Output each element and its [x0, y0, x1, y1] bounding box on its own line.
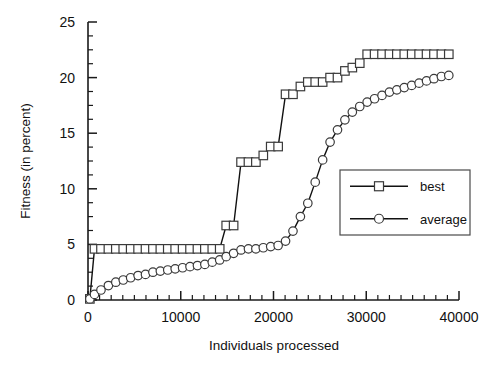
legend-label-best: best [420, 179, 445, 194]
data-point-marker [318, 156, 327, 165]
fitness-line-chart: 010000200003000040000 0510152025 bestave… [0, 0, 504, 367]
x-tick-label: 40000 [440, 309, 479, 325]
y-tick-label: 10 [59, 181, 75, 197]
legend-label-average: average [420, 212, 467, 227]
x-tick-label: 10000 [161, 309, 200, 325]
data-point-marker [274, 142, 283, 151]
data-point-marker [311, 178, 320, 187]
data-point-marker [215, 245, 224, 254]
data-point-marker [445, 50, 454, 59]
x-tick-label: 30000 [347, 309, 386, 325]
chart-legend: bestaverage [340, 170, 470, 235]
chart-figure: 010000200003000040000 0510152025 bestave… [0, 0, 504, 367]
y-axis-tick-labels: 0510152025 [59, 14, 75, 308]
axes [88, 22, 459, 300]
y-tick-label: 25 [59, 14, 75, 30]
data-point-marker [229, 221, 238, 230]
data-point-marker [348, 108, 357, 117]
y-axis-ticks [88, 22, 97, 300]
data-point-marker [341, 116, 350, 125]
data-point-marker [281, 237, 290, 246]
y-tick-label: 0 [67, 292, 75, 308]
data-point-marker [356, 59, 365, 67]
data-point-marker [375, 214, 384, 223]
data-point-marker [375, 182, 384, 191]
data-point-marker [296, 212, 305, 221]
y-tick-label: 15 [59, 125, 75, 141]
data-point-marker [289, 227, 298, 236]
data-point-marker [333, 126, 342, 135]
y-tick-label: 20 [59, 70, 75, 86]
x-axis-ticks [88, 291, 459, 300]
x-tick-label: 0 [84, 309, 92, 325]
x-axis-title: Individuals processed [209, 338, 339, 353]
data-point-marker [304, 199, 313, 208]
data-point-marker [326, 138, 335, 147]
data-point-marker [445, 71, 454, 80]
x-axis-tick-labels: 010000200003000040000 [84, 309, 479, 325]
data-point-marker [259, 151, 268, 160]
y-tick-label: 5 [67, 236, 75, 252]
y-axis-title: Fitness (in percent) [18, 103, 33, 219]
x-tick-label: 20000 [254, 309, 293, 325]
